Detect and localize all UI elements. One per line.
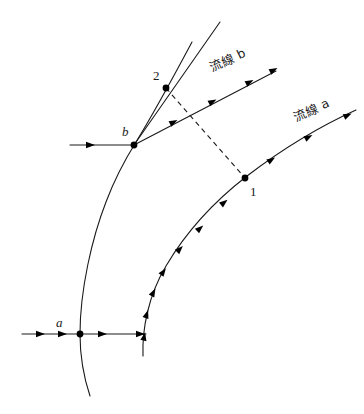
arrowhead-icon	[149, 287, 158, 297]
arrowhead-icon	[98, 331, 107, 338]
arrowhead-icon	[143, 309, 151, 319]
point-a-label: a	[56, 315, 63, 330]
arrowhead-icon	[86, 142, 95, 149]
point-2-label: 2	[153, 68, 160, 83]
upper-ray-through-point-2	[134, 22, 220, 145]
inlet-line-b-arrowheads	[86, 142, 95, 149]
arrowhead-icon	[158, 266, 168, 276]
point-a-dot	[77, 331, 84, 338]
arrowhead-icon	[269, 65, 279, 74]
dashed-connector-2-to-1	[166, 88, 245, 178]
arrowhead-icon	[304, 132, 314, 141]
streamline-b-label: 流線 b	[207, 45, 248, 75]
point-b-label: b	[122, 124, 129, 139]
left-boundary-curve	[80, 42, 192, 396]
point-1-dot	[242, 175, 249, 182]
arrowhead-icon	[36, 331, 45, 338]
streamline-a-label: 流線 a	[291, 95, 331, 125]
arrowhead-icon	[58, 331, 67, 338]
streamline-figure: a b 1 2 流線 a 流線 b	[0, 0, 364, 414]
diagram-canvas: a b 1 2 流線 a 流線 b	[0, 0, 364, 414]
arrowhead-icon	[245, 77, 255, 86]
point-b-dot	[131, 142, 138, 149]
point-1-label: 1	[250, 184, 257, 199]
streamline-a-curve	[143, 110, 356, 356]
arrowhead-icon	[195, 223, 205, 233]
streamline-a-arrowheads	[140, 111, 353, 342]
point-2-dot	[163, 85, 170, 92]
streamline-b-arrowheads	[169, 65, 279, 126]
